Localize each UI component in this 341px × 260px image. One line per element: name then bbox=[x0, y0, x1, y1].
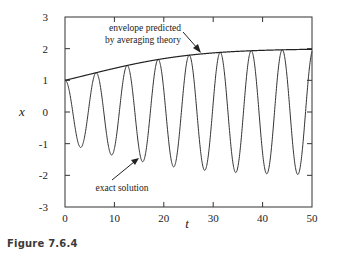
envelope-annotation-line2: by averaging theory bbox=[105, 35, 181, 45]
y-tick-label: -2 bbox=[39, 169, 48, 181]
exact-solution-annotation: exact solution bbox=[95, 183, 148, 193]
y-tick-label: -1 bbox=[39, 138, 48, 150]
y-tick-label: 2 bbox=[43, 43, 49, 55]
x-axis-label: t bbox=[185, 216, 189, 230]
x-tick-label: 30 bbox=[208, 212, 220, 224]
exact-solution-arrow-icon bbox=[112, 158, 139, 180]
x-tick-label: 10 bbox=[109, 212, 121, 224]
figure-caption: Figure 7.6.4 bbox=[7, 238, 78, 249]
x-tick-label: 40 bbox=[257, 212, 269, 224]
x-tick-label: 0 bbox=[62, 212, 68, 224]
envelope-curve bbox=[65, 49, 312, 80]
envelope-annotation-line1: envelope predicted bbox=[109, 23, 181, 33]
envelope-arrow-icon bbox=[183, 32, 201, 53]
x-tick-label: 50 bbox=[307, 212, 319, 224]
y-tick-label: 0 bbox=[43, 106, 49, 118]
y-tick-label: 1 bbox=[43, 74, 49, 86]
x-tick-label: 20 bbox=[158, 212, 170, 224]
y-axis-label: x bbox=[18, 104, 25, 119]
y-tick-label: 3 bbox=[43, 11, 49, 23]
y-tick-label: -3 bbox=[39, 201, 49, 213]
exact-solution-curve bbox=[65, 50, 312, 175]
chart-figure: 010203040503210-1-2-3 x t envelope predi… bbox=[0, 0, 341, 230]
